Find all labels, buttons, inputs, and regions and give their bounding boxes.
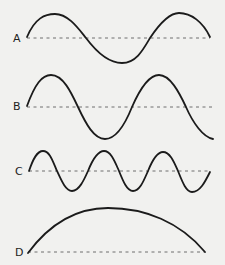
wave-label-a: A [13, 33, 21, 44]
wave-d-curve [28, 208, 205, 253]
wave-diagram-svg [0, 0, 225, 265]
wave-diagram: A B C D [0, 0, 225, 265]
wave-c [29, 151, 210, 192]
wave-d [28, 208, 205, 253]
wave-b [27, 75, 213, 139]
wave-label-b: B [13, 101, 21, 112]
wave-label-d: D [15, 247, 23, 258]
wave-a [27, 13, 210, 63]
wave-label-c: C [15, 166, 23, 177]
